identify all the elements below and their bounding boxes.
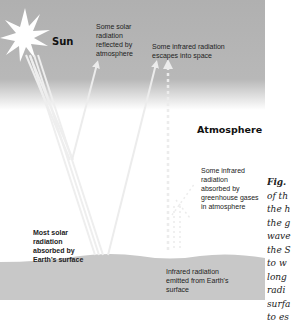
ir-absorbed-rays (172, 183, 195, 248)
figure-caption: Fig. of th the h the g wave the S to w l… (267, 176, 300, 324)
label-ir-escapes: Some infrared radiation escapes into spa… (152, 42, 225, 60)
label-solar-absorbed-surface: Most solar radiation absorbed by Earth's… (33, 228, 83, 264)
label-reflected: Some solar radiation reflected by atmosp… (96, 22, 133, 58)
label-ir-emitted: Infrared radiation emitted from Earth's … (166, 267, 228, 294)
caption-text: of th the h the g wave the S to w long r… (267, 191, 291, 323)
atmosphere-label: Atmosphere (197, 124, 262, 135)
label-ir-absorbed-gases: Some infrared radiation absorbed by gree… (201, 166, 259, 211)
figure-label: Fig. (267, 177, 286, 187)
sun-label: Sun (52, 36, 73, 47)
